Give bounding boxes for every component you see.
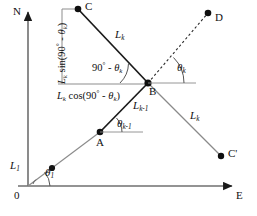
leg-k-minus-1-subscript: k-1 [139,105,148,113]
north-component-close: ) [56,23,67,27]
label-leg-1: L1 [10,160,20,173]
axis-label-north: N [13,6,21,17]
north-component-function: sin(90 [56,46,67,75]
leg-k-lower-subscript: k [196,115,199,123]
east-component-tail: - θ [99,90,113,101]
complement-minus-theta: - θ [105,62,119,73]
label-leg-k-upper: Lk [115,29,124,42]
point-label-c: C [85,1,92,12]
north-component-prefix: L [56,78,67,84]
point-label-d: D [215,12,223,23]
theta-k-subscript: k [182,67,185,75]
label-east-component: Lk cos(90° - θk) [57,90,120,103]
point-d-dot [205,10,212,17]
point-label-cprime: C' [228,148,237,159]
point-c-dot [75,6,82,13]
label-leg-k-lower: Lk [190,110,199,123]
label-theta-k-minus-1: θk-1 [117,118,132,131]
east-component-close: ) [116,90,120,101]
point-cprime-dot [218,153,224,159]
origin-label: 0 [14,190,20,201]
north-component-degree: ° [55,43,64,46]
north-component-tail-subscript: k [61,26,68,29]
theta-1-subscript: 1 [50,172,54,180]
label-theta-1: θ1 [45,167,54,180]
east-component-function: cos(90 [66,90,97,101]
geometry-diagram [0,0,257,216]
leg-1-subscript: 1 [16,165,20,173]
complement-value: 90 [92,62,103,73]
complement-subscript: k [119,67,122,74]
leg-k-upper-subscript: k [121,34,124,42]
label-complement-angle: 90° - θk [92,62,122,75]
north-component-subscript: k [61,75,68,78]
label-theta-k: θk [177,62,186,75]
theta-k-minus-1-subscript: k-1 [122,123,131,131]
label-leg-k-minus-1: Lk-1 [133,100,148,113]
segment-b-to-cprime [148,83,221,156]
axis-label-east: E [236,190,243,201]
segment-origin-to-a [28,132,100,186]
north-component-tail: - θ [56,29,67,43]
label-north-component: Lk sin(90° - θk) [56,23,69,84]
point-label-a: A [96,137,104,148]
point-label-b: B [149,86,156,97]
